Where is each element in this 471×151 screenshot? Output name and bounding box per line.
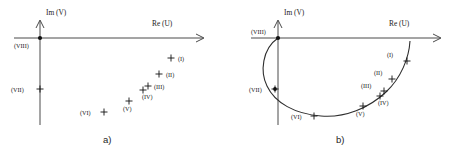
data-point-iv-a: (IV) [140,87,153,102]
data-point-label-viii-b: (VIII) [251,28,266,36]
re-axis-label-b: Re (U) [389,19,410,28]
data-point-label-iii-a: (III) [154,83,164,91]
re-axis-a [14,34,204,42]
im-axis-label-b: Im (V) [284,8,305,17]
figure-container: Im (V) Re (U) (VIII) (VII) (VI) [0,0,471,151]
panel-caption-b: b) [336,134,344,145]
data-point-vii-b: (VII) [249,86,279,94]
im-axis-a [36,20,44,125]
data-point-iii-b: (III) [361,82,388,95]
re-axis-label-a: Re (U) [152,19,173,28]
data-point-label-ii-b: (II) [374,69,382,77]
data-point-iii-a: (III) [145,83,165,92]
data-point-i-b: (I) [387,51,411,65]
data-point-label-vii-b: (VII) [249,86,262,94]
data-point-label-i-a: (I) [178,55,184,63]
data-point-label-viii-a: (VIII) [14,42,29,50]
panel-a-plot: Im (V) Re (U) (VIII) (VII) (VI) [0,0,236,151]
panel-b-plot: Im (V) Re (U) (VIII) (VII) (VI) [235,0,471,151]
data-point-vii-a: (VII) [11,86,44,94]
data-point-label-v-b: (V) [356,110,365,118]
data-point-vi-a: (VI) [80,109,108,117]
data-point-label-iv-a: (IV) [142,93,153,101]
im-axis-label-a: Im (V) [46,8,67,17]
data-point-ii-a: (II) [156,71,175,79]
panel-b: Im (V) Re (U) (VIII) (VII) (VI) [235,0,471,151]
data-point-label-i-b: (I) [387,51,393,59]
data-point-label-vi-b: (VI) [291,113,302,121]
data-point-v-a: (V) [123,98,133,114]
data-point-v-b: (V) [356,103,367,119]
data-point-label-vii-a: (VII) [11,86,24,94]
data-point-label-iii-b: (III) [361,82,371,90]
data-point-label-iv-b: (IV) [378,99,389,107]
data-point-label-v-a: (V) [123,105,132,113]
panel-a: Im (V) Re (U) (VIII) (VII) (VI) [0,0,236,151]
data-point-i-a: (I) [168,55,185,63]
data-point-ii-b: (II) [374,69,396,83]
data-point-label-ii-a: (II) [166,71,174,79]
data-point-label-vi-a: (VI) [80,109,91,117]
panel-caption-a: a) [103,134,111,145]
im-axis-b [274,20,282,125]
